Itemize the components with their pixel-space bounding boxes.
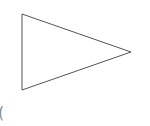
diagram-canvas: ( <box>0 0 150 126</box>
partial-paren-glyph: ( <box>0 104 4 122</box>
triangle-shape <box>0 0 150 126</box>
triangle-polygon <box>22 14 131 90</box>
